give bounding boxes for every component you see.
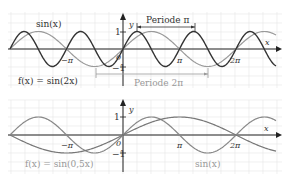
top-tick-m1: −1 (112, 63, 125, 73)
top-tick-neg-pi: −π (61, 56, 74, 65)
top-y-label: y (128, 20, 134, 29)
bottom-f-label: f(x) = sin(0,5x) (25, 159, 93, 169)
top-tick-pi: π (176, 56, 183, 65)
bottom-chart: x y 1 −1 0 −π π 2π f(x) = sin(0,5x) sin(… (8, 99, 282, 172)
top-chart: Periode π Periode 2π sin(x) f(x) = sin(2… (8, 13, 282, 88)
bottom-tick-neg-pi: −π (61, 141, 74, 150)
top-x-label: x (265, 38, 270, 47)
bottom-tick-pi: π (176, 141, 183, 150)
top-sin-label: sin(x) (36, 19, 61, 29)
bottom-tick-m1: −1 (112, 149, 125, 159)
bottom-y-label: y (128, 105, 134, 114)
bottom-x-arrow-icon (276, 132, 282, 138)
top-f-label: f(x) = sin(2x) (18, 76, 78, 86)
periode-2pi-label: Periode 2π (134, 78, 183, 88)
top-tick-1: 1 (115, 27, 121, 37)
bottom-x-label: x (264, 124, 269, 133)
bottom-tick-2pi: 2π (229, 141, 241, 150)
top-x-arrow-icon (276, 46, 282, 52)
grid (8, 12, 282, 174)
bottom-tick-1: 1 (114, 112, 120, 122)
periode-pi-label: Periode π (146, 15, 190, 25)
bottom-origin: 0 (116, 139, 121, 148)
top-tick-2pi: 2π (229, 56, 241, 65)
top-origin: 0 (116, 53, 121, 62)
sine-period-diagram: Periode π Periode 2π sin(x) f(x) = sin(2… (0, 0, 286, 179)
bottom-sin-label: sin(x) (195, 159, 220, 169)
